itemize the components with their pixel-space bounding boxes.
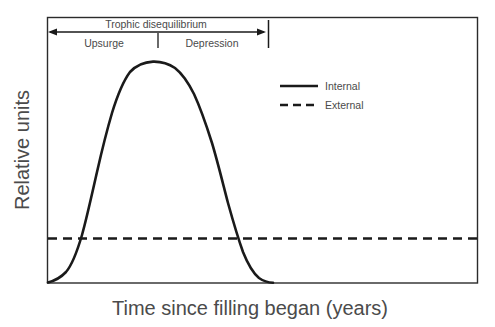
x-axis-title: Time since filling began (years)	[112, 297, 388, 319]
annotation-phase-right-label: Depression	[185, 37, 238, 49]
chart-figure: Trophic disequilibrium Upsurge Depressio…	[0, 0, 495, 327]
chart-background	[0, 0, 495, 327]
legend-label-internal: Internal	[325, 80, 360, 92]
y-axis-title: Relative units	[11, 90, 33, 210]
annotation-phase-left-label: Upsurge	[84, 37, 124, 49]
chart-canvas: Trophic disequilibrium Upsurge Depressio…	[0, 0, 495, 327]
annotation-span-label: Trophic disequilibrium	[105, 18, 207, 30]
legend-label-external: External	[325, 99, 364, 111]
